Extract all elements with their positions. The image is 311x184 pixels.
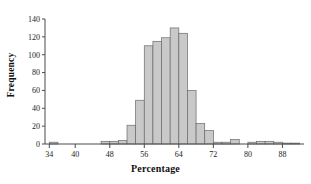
plot-area: 0204060801001201403440485664728088 — [0, 0, 311, 184]
x-axis-tick-label: 40 — [71, 150, 79, 159]
histogram-bar — [187, 90, 196, 144]
histogram-bar — [127, 125, 136, 144]
y-axis-tick-label: 80 — [32, 68, 40, 77]
y-axis-tick-label: 100 — [28, 51, 40, 60]
y-axis-tick-label: 20 — [32, 122, 40, 131]
x-axis-tick-label: 34 — [45, 150, 53, 159]
y-axis-tick-label: 0 — [36, 140, 40, 149]
y-axis-tick-label: 40 — [32, 104, 40, 113]
histogram-bar — [118, 140, 127, 144]
histogram-bar — [170, 28, 179, 144]
x-axis-tick-label: 72 — [209, 150, 217, 159]
histogram-bar — [153, 41, 162, 144]
histogram-bar — [196, 123, 205, 144]
x-axis-tick-label: 88 — [278, 150, 286, 159]
histogram-bar — [162, 38, 171, 144]
y-axis-tick-label: 140 — [28, 15, 40, 24]
y-axis-tick-label: 60 — [32, 86, 40, 95]
histogram-chart: Frequency 020406080100120140344048566472… — [0, 0, 311, 184]
histogram-bar — [136, 100, 145, 144]
y-axis-tick-label: 120 — [28, 33, 40, 42]
histogram-bar — [205, 131, 214, 144]
histogram-bar — [144, 46, 153, 144]
histogram-bar — [231, 140, 240, 144]
histogram-bar — [179, 33, 188, 144]
x-axis-tick-label: 80 — [244, 150, 252, 159]
x-axis-tick-label: 56 — [140, 150, 148, 159]
x-axis-tick-label: 64 — [175, 150, 183, 159]
x-axis-title: Percentage — [0, 163, 311, 174]
x-axis-tick-label: 48 — [106, 150, 114, 159]
